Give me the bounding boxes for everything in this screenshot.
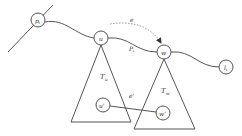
label-tw: Tw [161,87,170,96]
edge-e-arrow [110,23,161,43]
path-p-u [45,21,94,38]
label-path: Pi [128,45,135,53]
edge-through-p [8,5,53,52]
edge-e-prime [110,106,156,112]
label-e-prime: e' [129,92,135,99]
label-tu: Tu [100,73,108,82]
label-w-prime: w' [159,110,166,117]
tree-path-diagram: pi u w li u' w' Tu Tw e e' Pi [0,0,242,136]
label-u-prime: u' [99,102,105,109]
label-u: u [99,35,103,42]
label-w: w [161,49,167,56]
path-w-l [171,52,219,67]
label-e: e [130,16,134,23]
